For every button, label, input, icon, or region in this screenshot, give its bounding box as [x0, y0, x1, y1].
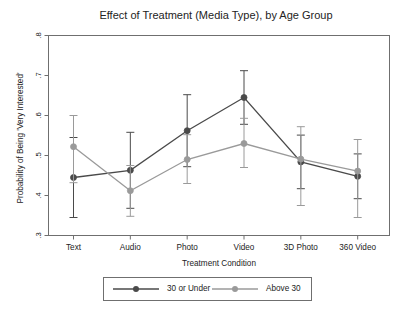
y-tick-label: .5 — [34, 152, 43, 158]
legend-label-2: Above 30 — [266, 284, 301, 293]
y-axis-title: Probability of Being 'Very Interested' — [16, 72, 25, 203]
chart-legend: 30 or UnderAbove 30 — [104, 278, 312, 301]
x-tick-label: Video — [234, 243, 255, 252]
data-point — [71, 144, 77, 150]
series-layer — [70, 71, 362, 218]
data-point — [184, 157, 190, 163]
x-tick-label: 360 Video — [339, 243, 376, 252]
x-tick-label: Audio — [120, 243, 141, 252]
data-point — [241, 141, 247, 147]
x-tick-label: Text — [66, 243, 82, 252]
x-tick-label: 3D Photo — [284, 243, 319, 252]
legend-label-1: 30 or Under — [167, 284, 211, 293]
data-point — [184, 128, 190, 134]
x-tick-label: Photo — [176, 243, 198, 252]
data-point — [241, 95, 247, 101]
series-line — [74, 98, 358, 178]
y-tick-label: .7 — [34, 72, 43, 78]
y-tick-label: .4 — [34, 192, 43, 198]
data-point — [127, 188, 133, 194]
y-tick-label: .6 — [34, 112, 43, 118]
data-point — [355, 168, 361, 174]
data-point — [298, 156, 304, 162]
legend-marker-2 — [232, 286, 238, 292]
x-axis-ticks: TextAudioPhotoVideo3D Photo360 Video — [66, 236, 376, 252]
y-tick-label: .3 — [34, 232, 43, 238]
series-line — [74, 144, 358, 191]
chart-figure: Effect of Treatment (Media Type), by Age… — [0, 0, 412, 311]
y-axis-ticks: .8.7.6.5.4.3 — [34, 32, 49, 238]
y-tick-label: .8 — [34, 32, 43, 38]
plot-frame — [49, 36, 390, 236]
legend-marker-1 — [133, 286, 139, 292]
series-1 — [70, 71, 362, 218]
x-axis-title: Treatment Condition — [182, 259, 256, 268]
chart-title: Effect of Treatment (Media Type), by Age… — [99, 9, 332, 21]
